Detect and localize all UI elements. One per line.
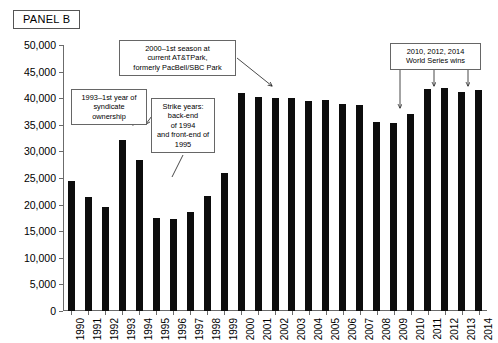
x-tick-label: 2014 [483,318,494,340]
y-tick-label: 30,000 [24,145,56,157]
x-tick-label: 1997 [194,318,205,340]
x-tick [258,311,259,315]
annotation-line: 1993–1st year of [76,93,142,102]
x-tick [207,311,208,315]
bar [119,140,126,311]
x-tick [71,311,72,315]
bar [373,122,380,311]
y-tick-label: 45,000 [24,66,56,78]
y-tick [59,125,63,126]
annotation-line: Strike years: [156,102,210,111]
y-tick [59,45,63,46]
bar [390,123,397,311]
y-tick [59,178,63,179]
x-tick-label: 1998 [211,318,222,340]
x-tick-label: 1991 [92,318,103,340]
bar [204,196,211,311]
bar [424,89,431,311]
y-tick [59,151,63,152]
y-tick-label: 40,000 [24,92,56,104]
x-tick [326,311,327,315]
x-tick [292,311,293,315]
x-tick [428,311,429,315]
x-tick-label: 2007 [364,318,375,340]
bar [339,104,346,311]
x-tick-label: 1995 [160,318,171,340]
x-tick-label: 2003 [296,318,307,340]
x-tick [377,311,378,315]
bar [407,114,414,311]
x-tick [479,311,480,315]
bar [102,207,109,311]
bar [475,90,482,311]
bar [68,181,75,311]
y-tick-label: 20,000 [24,199,56,211]
annotation-line: formerly PacBell/SBC Park [124,63,231,72]
y-tick [59,284,63,285]
x-tick-label: 2011 [432,318,443,340]
bar [356,105,363,311]
x-tick [360,311,361,315]
y-tick-label: 10,000 [24,252,56,264]
bar [458,92,465,311]
x-tick-label: 1992 [109,318,120,340]
x-tick [343,311,344,315]
x-tick [275,311,276,315]
x-tick [139,311,140,315]
annotation-line: syndicate ownership [76,102,142,121]
y-tick [59,98,63,99]
x-tick-label: 1994 [143,318,154,340]
bar [221,173,228,311]
bar [85,197,92,311]
y-tick-label: 50,000 [24,39,56,51]
bar [255,97,262,311]
bar [170,219,177,311]
y-tick-label: 15,000 [24,225,56,237]
panel-label: PANEL B [13,10,80,29]
x-tick-label: 2012 [449,318,460,340]
x-tick-label: 2005 [330,318,341,340]
x-tick-label: 2000 [245,318,256,340]
x-tick [88,311,89,315]
bar [288,98,295,311]
annotation-syndicate-ownership: 1993–1st year of syndicate ownership [71,89,147,125]
x-tick-label: 1990 [75,318,86,340]
y-tick [59,205,63,206]
y-tick [59,72,63,73]
x-tick-label: 2001 [262,318,273,340]
y-axis-line [63,45,64,311]
bar [322,100,329,311]
chart-container: PANEL B 05,00010,00015,00020,00025,00030… [0,0,498,343]
x-tick-label: 2013 [466,318,477,340]
x-tick [309,311,310,315]
bar [136,160,143,311]
annotation-line: back-end [156,111,210,120]
annotation-line: of 1994 [156,121,210,130]
annotation-line: and front-end of [156,130,210,139]
annotation-line: World Series wins [395,56,476,65]
annotation-line: 2010, 2012, 2014 [395,47,476,56]
bar [272,98,279,311]
x-tick-label: 2009 [398,318,409,340]
y-tick-label: 35,000 [24,119,56,131]
annotation-strike-years: Strike years: back-end of 1994 and front… [151,98,215,153]
annotation-line: current AT&TPark, [124,53,231,62]
y-tick-label: 25,000 [24,172,56,184]
x-tick-label: 1993 [126,318,137,340]
bar [441,88,448,311]
annotation-ballpark: 2000–1st season at current AT&TPark, for… [119,40,236,76]
y-tick-label: 5,000 [30,278,56,290]
annotation-line: 1995 [156,140,210,149]
x-tick [411,311,412,315]
y-tick [59,311,63,312]
x-tick-label: 2008 [381,318,392,340]
bar [187,212,194,311]
x-tick [462,311,463,315]
plot-area: 05,00010,00015,00020,00025,00030,00035,0… [63,45,487,311]
x-tick-label: 2006 [347,318,358,340]
x-tick-label: 2002 [279,318,290,340]
x-tick [241,311,242,315]
x-tick-label: 2004 [313,318,324,340]
x-tick-label: 1996 [177,318,188,340]
x-tick [394,311,395,315]
